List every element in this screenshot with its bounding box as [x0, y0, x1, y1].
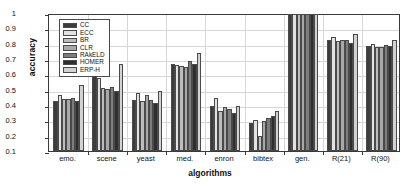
legend-label: BR: [80, 37, 89, 43]
bar-group: [132, 15, 163, 151]
y-tick-mark: [45, 107, 49, 108]
y-tick-label: 0.5: [0, 87, 16, 95]
bar: [275, 111, 279, 151]
y-tick-label: 0.6: [0, 71, 16, 79]
x-tick-label: gen.: [295, 155, 310, 163]
legend-swatch: [63, 30, 77, 35]
x-tick-label: bibtex: [253, 155, 273, 163]
bar: [314, 14, 318, 151]
legend-label: HOMER: [80, 59, 104, 65]
y-axis-label: accuracy: [27, 19, 37, 95]
bar: [197, 53, 201, 151]
bar-group: [171, 15, 202, 151]
x-tick-label: emo.: [59, 155, 76, 163]
y-tick-label: 0.1: [0, 148, 16, 156]
x-tick-label: scene: [97, 155, 117, 163]
gridline-vertical: [205, 15, 206, 151]
bar: [119, 64, 123, 151]
legend-item: ERP-H: [63, 66, 105, 73]
x-tick-mark: [88, 151, 89, 155]
x-tick-mark: [205, 151, 206, 155]
y-tick-label: 0.3: [0, 117, 16, 125]
gridline-vertical: [284, 15, 285, 151]
y-tick-mark: [45, 122, 49, 123]
legend-label: CC: [80, 22, 89, 28]
x-axis-label: algorithms: [0, 168, 420, 178]
legend-swatch: [63, 23, 77, 28]
y-tick-label: 0.8: [0, 41, 16, 49]
y-tick-label: 0.9: [0, 25, 16, 33]
bar-group: [288, 15, 319, 151]
bar-chart-figure: accuracy 0.10.20.30.40.50.60.70.80.91 CC…: [0, 0, 420, 195]
y-tick-mark: [45, 46, 49, 47]
bar: [158, 91, 162, 151]
bar: [392, 40, 396, 151]
bar-group: [249, 15, 280, 151]
x-tick-mark: [245, 151, 246, 155]
x-tick-label: med.: [177, 155, 194, 163]
bar-group: [327, 15, 358, 151]
x-tick-label: R(21): [332, 155, 351, 163]
legend-swatch: [63, 38, 77, 43]
chart-legend: CCECCBRCLRRAkELDHOMERERP-H: [59, 19, 110, 77]
x-tick-label: enron: [214, 155, 233, 163]
legend-swatch: [63, 53, 77, 58]
x-tick-label: yeast: [137, 155, 155, 163]
x-tick-mark: [284, 151, 285, 155]
y-tick-mark: [45, 15, 49, 16]
gridline-vertical: [166, 15, 167, 151]
y-tick-label: 0.4: [0, 102, 16, 110]
y-tick-mark: [45, 138, 49, 139]
gridline-vertical: [245, 15, 246, 151]
y-tick-mark: [45, 76, 49, 77]
gridline-vertical: [323, 15, 324, 151]
x-tick-label: R(90): [371, 155, 390, 163]
y-tick-mark: [45, 61, 49, 62]
legend-label: ERP-H: [80, 67, 100, 73]
bar: [79, 85, 83, 151]
legend-swatch: [63, 60, 77, 65]
gridline-vertical: [362, 15, 363, 151]
y-tick-mark: [45, 92, 49, 93]
legend-swatch: [63, 45, 77, 50]
bar: [353, 34, 357, 151]
bar-group: [366, 15, 397, 151]
plot-area: CCECCBRCLRRAkELDHOMERERP-H: [48, 14, 400, 152]
x-tick-mark: [362, 151, 363, 155]
x-tick-mark: [323, 151, 324, 155]
x-tick-mark: [127, 151, 128, 155]
gridline-vertical: [127, 15, 128, 151]
y-tick-label: 1: [0, 10, 16, 18]
legend-swatch: [63, 67, 77, 72]
bar: [236, 106, 240, 151]
y-tick-mark: [45, 153, 49, 154]
y-tick-mark: [45, 30, 49, 31]
y-tick-label: 0.2: [0, 133, 16, 141]
bar-group: [210, 15, 241, 151]
x-tick-mark: [166, 151, 167, 155]
y-tick-label: 0.7: [0, 56, 16, 64]
